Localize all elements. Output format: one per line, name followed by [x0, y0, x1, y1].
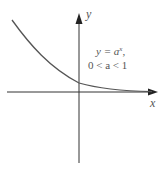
y-axis-label: y: [85, 7, 92, 21]
function-label: y = ax,: [95, 45, 125, 57]
y-axis-arrow-icon: [76, 13, 83, 24]
graph-canvas: y x y = ax, 0 < a < 1: [0, 0, 168, 172]
condition-label: 0 < a < 1: [88, 59, 127, 71]
exponential-decay-curve: [12, 20, 152, 92]
x-axis-label: x: [149, 96, 156, 110]
